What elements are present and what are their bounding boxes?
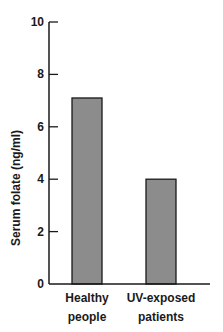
y-axis-title: Serum folate (ng/ml) [9,130,23,246]
y-axis: 0246810 [31,15,58,291]
x-category-label: people [68,310,107,324]
y-tick-label: 2 [37,225,44,239]
y-tick-label: 6 [37,120,44,134]
bar-2 [146,179,176,284]
y-tick-label: 0 [37,277,44,291]
y-tick-label: 8 [37,67,44,81]
y-tick-label: 4 [37,172,44,186]
y-tick-label: 10 [31,15,45,29]
x-axis: HealthypeopleUV-exposedpatients [49,284,210,324]
bar-1 [72,98,102,284]
x-category-label: patients [138,310,184,324]
x-category-label: UV-exposed [127,291,196,305]
bar-chart: 0246810 HealthypeopleUV-exposedpatients … [0,0,223,332]
x-category-label: Healthy [65,291,109,305]
bars [72,98,176,284]
